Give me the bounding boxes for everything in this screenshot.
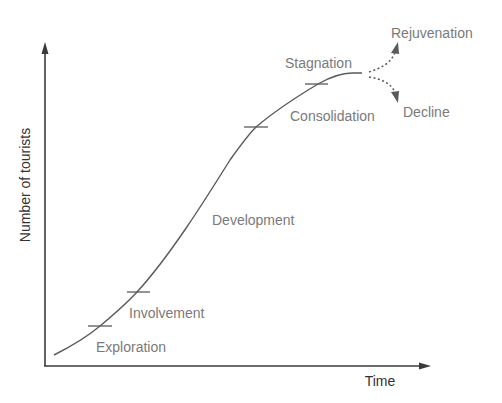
- rejuvenation-branch: [369, 42, 399, 72]
- stage-label-consolidation: Consolidation: [290, 108, 375, 124]
- stage-label-stagnation: Stagnation: [285, 55, 352, 71]
- x-axis-label: Time: [365, 373, 396, 389]
- x-axis-arrow-icon: [419, 363, 431, 370]
- y-axis-arrow-icon: [42, 42, 49, 54]
- x-axis: [44, 363, 431, 370]
- stage-label-development: Development: [212, 212, 295, 228]
- decline-dotted-line: [369, 77, 395, 93]
- outcome-label-rejuvenation: Rejuvenation: [391, 25, 473, 41]
- decline-arrow-icon: [391, 91, 399, 103]
- rejuvenation-arrow-icon: [391, 42, 399, 54]
- stage-label-exploration: Exploration: [96, 339, 166, 355]
- tourism-life-cycle-diagram: Number of tourists Time Exploration Invo…: [0, 0, 502, 403]
- rejuvenation-dotted-line: [369, 52, 395, 72]
- stage-label-involvement: Involvement: [129, 305, 205, 321]
- decline-branch: [369, 77, 399, 103]
- outcome-label-decline: Decline: [403, 104, 450, 120]
- y-axis-label: Number of tourists: [17, 128, 33, 242]
- y-axis: [42, 42, 49, 366]
